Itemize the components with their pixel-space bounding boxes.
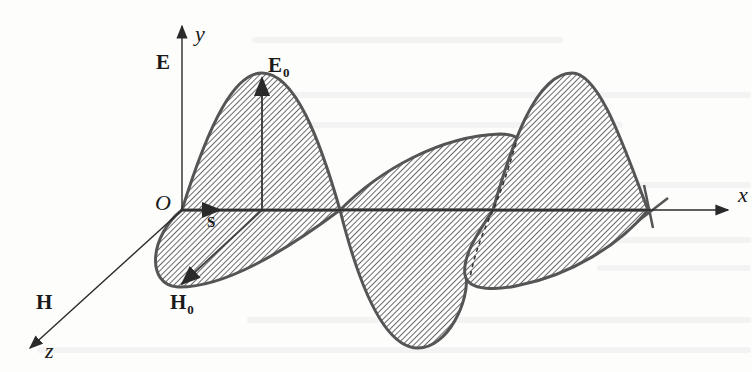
h0-subscript: 0: [187, 302, 194, 317]
x-axis-label: x: [738, 184, 748, 206]
e-field-label: E: [156, 52, 170, 73]
y-axis-label: y: [195, 23, 205, 45]
e0-subscript: 0: [283, 65, 290, 80]
s-vector-label: S: [207, 215, 215, 230]
h0-letter: H: [170, 290, 186, 314]
h-field-lobe-1: [156, 210, 340, 287]
h-field-lobe-2: [340, 134, 521, 210]
h0-amplitude-label: H0: [170, 292, 194, 313]
h-field-lobe-3: [465, 210, 648, 289]
z-axis: [30, 210, 182, 348]
wave-drawing: [0, 0, 752, 372]
e0-amplitude-label: E0: [268, 55, 290, 76]
em-wave-figure: y x z O E E0 H H0 S: [0, 0, 752, 372]
e0-letter: E: [268, 53, 282, 77]
z-axis-label: z: [45, 340, 54, 362]
h-field-label: H: [36, 292, 52, 313]
origin-label: O: [155, 192, 171, 214]
